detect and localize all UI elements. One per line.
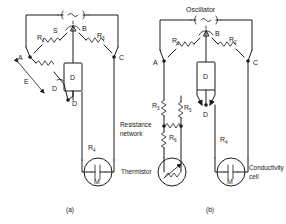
circuit-diagram-svg: B R 1 S R 3 A C E [0, 0, 286, 224]
component-sub-R2-a: 3 [102, 36, 105, 41]
component-R3-b [161, 100, 166, 124]
annotation-conductivity-cell-line1: Conductivity [249, 164, 285, 172]
conductivity-cell-symbol: M [215, 158, 248, 186]
node-label-C-b: C [253, 59, 258, 66]
annotation-resistance-network-line2: network [120, 130, 143, 137]
component-sub-R4-a: 4 [93, 148, 96, 153]
node-label-B-b: B [215, 30, 220, 37]
panel-caption-b: (b) [206, 206, 214, 214]
wire-topleft-A-b [160, 50, 164, 61]
node-D-dot-a [66, 98, 70, 102]
component-R5-b [178, 96, 183, 124]
detector-label-a: D [70, 74, 75, 81]
wire-top-left-to-A [26, 47, 30, 57]
node-label-A-b: A [153, 59, 158, 66]
node-label-D-a: D [72, 100, 77, 107]
component-R2-b [212, 38, 244, 57]
component-sub-R1-a: 1 [42, 38, 45, 43]
wire-top-right-to-C [114, 47, 118, 57]
panel-b: Oscillator B R 1 [120, 6, 285, 214]
bridging-resistor-b [162, 123, 183, 128]
panel-a: B R 1 S R 3 A C E [18, 11, 124, 214]
cell-label-b: M [227, 178, 233, 185]
ac-source-symbol [58, 11, 88, 19]
component-R2-a [79, 33, 112, 53]
figure-canvas: B R 1 S R 3 A C E [0, 0, 286, 224]
component-sub-R3-b: 3 [157, 106, 160, 111]
wire-topright-C-b [248, 50, 252, 61]
panel-caption-a: (a) [66, 206, 74, 214]
component-sub-R5-b: 5 [189, 108, 192, 113]
component-sub-R2-b: 2 [234, 40, 237, 45]
annotation-thermistor: Thermistor [121, 168, 152, 175]
component-sub-R1-b: 1 [177, 41, 180, 46]
wire-osc-to-A [160, 20, 191, 50]
node-D-junction-b [197, 90, 215, 107]
node-label-B-a: B [82, 25, 87, 32]
node-B-wiper-b [199, 26, 213, 62]
component-R6-b [161, 126, 166, 158]
component-label-S-a: S [53, 27, 58, 34]
cell-label-a: M [94, 178, 100, 185]
node-label-A-a: A [18, 54, 23, 61]
node-label-C-a: C [119, 54, 124, 61]
component-label-R3-a: E [24, 78, 29, 85]
wire-source-to-C [88, 15, 118, 47]
component-R3-a [18, 57, 64, 93]
annotation-conductivity-cell-line2: cell [249, 173, 259, 180]
oscillator-symbol [191, 16, 221, 24]
wire-osc-to-C [221, 20, 252, 50]
node-label-D-b: D [203, 111, 208, 118]
component-sub-R6-b: 6 [174, 138, 177, 143]
component-label-E-a: D [52, 85, 57, 92]
annotation-resistance-network-line1: Resistance [120, 121, 152, 128]
oscillator-title: Oscillator [186, 6, 216, 13]
cell-a: M [82, 158, 114, 186]
detector-label-b: D [203, 73, 208, 80]
component-sub-R4-b: 4 [225, 140, 228, 145]
